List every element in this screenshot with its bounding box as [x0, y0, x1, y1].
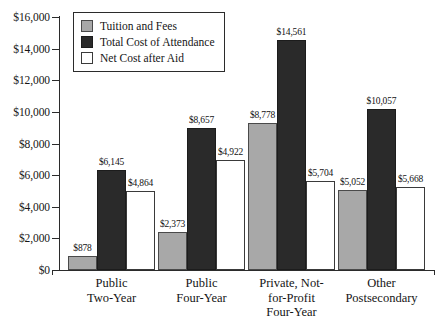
x-axis-category-label: Private, Not- for-Profit Four-Year [259, 276, 324, 320]
x-axis-tick-mark [434, 270, 435, 275]
x-axis-category-label: Other Postsecondary [345, 276, 417, 305]
bar-0-3 [338, 190, 367, 270]
legend-item: Tuition and Fees [81, 18, 215, 34]
chart-legend: Tuition and FeesTotal Cost of Attendance… [73, 12, 225, 72]
legend-label: Total Cost of Attendance [100, 36, 215, 48]
bar-value-label: $2,373 [160, 219, 185, 229]
bar-value-label: $5,668 [398, 174, 423, 184]
bar-2-3 [396, 187, 425, 270]
legend-swatch-icon [81, 52, 93, 64]
bar-value-label: $4,922 [218, 147, 243, 157]
legend-label: Net Cost after Aid [100, 52, 184, 64]
y-axis-tick-mark [52, 80, 60, 81]
x-axis-tick-mark [52, 270, 53, 275]
bar-0-2 [248, 123, 277, 270]
bar-2-2 [306, 181, 335, 270]
y-axis-tick-mark [52, 238, 60, 239]
bar-value-label: $10,057 [367, 96, 397, 106]
bar-value-label: $8,778 [250, 110, 275, 120]
legend-label: Tuition and Fees [100, 20, 177, 32]
bar-0-0 [68, 256, 97, 270]
bar-value-label: $5,704 [308, 168, 333, 178]
bar-2-1 [216, 160, 245, 270]
bar-value-label: $4,864 [128, 178, 153, 188]
y-axis-tick-mark [52, 175, 60, 176]
y-axis-tick-mark [52, 17, 60, 18]
bar-1-3 [367, 109, 396, 270]
y-axis-tick-mark [52, 144, 60, 145]
bar-1-0 [97, 170, 126, 270]
bar-value-label: $6,145 [99, 157, 124, 167]
legend-swatch-icon [81, 20, 93, 32]
bar-chart: $0$2,000$4,000$6,000$8,000$10,000$12,000… [0, 0, 443, 327]
y-axis-tick-mark [52, 270, 60, 271]
x-axis-category-label: Public Four-Year [176, 276, 227, 305]
bar-value-label: $5,052 [340, 177, 365, 187]
bar-0-1 [158, 232, 187, 270]
bar-value-label: $14,561 [277, 27, 307, 37]
y-axis-tick-mark [52, 49, 60, 50]
legend-item: Total Cost of Attendance [81, 34, 215, 50]
y-axis-tick-mark [52, 112, 60, 113]
bar-1-2 [277, 40, 306, 270]
bar-value-label: $878 [73, 243, 91, 253]
y-axis-tick-mark [52, 207, 60, 208]
legend-item: Net Cost after Aid [81, 50, 215, 66]
bar-2-0 [126, 191, 155, 270]
bar-value-label: $8,657 [189, 115, 214, 125]
legend-swatch-icon [81, 36, 93, 48]
bar-1-1 [187, 128, 216, 270]
x-axis-category-label: Public Two-Year [87, 276, 136, 305]
